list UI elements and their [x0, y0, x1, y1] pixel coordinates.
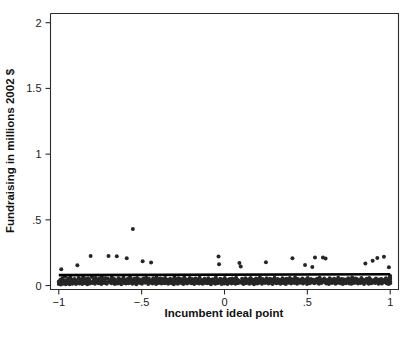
regression-line	[59, 274, 390, 275]
y-axis-title: Fundraising in millions 2002 $	[4, 68, 16, 233]
data-point	[264, 260, 268, 264]
data-point	[237, 261, 241, 265]
data-point	[303, 263, 307, 267]
data-point	[363, 261, 367, 265]
data-point	[89, 254, 93, 258]
data-point	[371, 259, 375, 263]
figure-container: 0.511.52 −1−.50.51 Incumbent ideal point…	[0, 0, 415, 342]
y-tick-label: 2	[35, 17, 41, 29]
data-point	[131, 227, 135, 231]
scatter-plot: 0.511.52 −1−.50.51 Incumbent ideal point…	[0, 0, 415, 342]
y-tick-label: 0	[35, 280, 41, 292]
x-tick-label: .5	[303, 296, 312, 308]
x-tick-label: 0	[221, 296, 227, 308]
data-point	[59, 267, 63, 271]
data-point	[217, 262, 221, 266]
data-point	[310, 265, 314, 269]
data-point	[375, 256, 379, 260]
x-tick-label: −1	[53, 296, 66, 308]
data-point	[141, 259, 145, 263]
data-point	[125, 256, 129, 260]
data-point	[239, 265, 243, 269]
y-tick-label: 1	[35, 148, 41, 160]
x-tick-label: −.5	[134, 296, 150, 308]
data-point	[388, 281, 392, 285]
data-point	[313, 255, 317, 259]
data-point	[387, 265, 391, 269]
y-tick-label: 1.5	[26, 82, 41, 94]
x-axis-title: Incumbent ideal point	[165, 307, 284, 319]
fit-line	[59, 274, 390, 275]
data-point	[115, 254, 119, 258]
y-tick-label: .5	[32, 214, 41, 226]
data-point	[75, 263, 79, 267]
data-point	[217, 255, 221, 259]
figure-background	[0, 0, 415, 342]
data-point	[324, 257, 328, 261]
x-tick-label: 1	[387, 296, 393, 308]
data-point	[149, 261, 153, 265]
data-point	[290, 256, 294, 260]
data-point	[382, 255, 386, 259]
data-point	[107, 254, 111, 258]
